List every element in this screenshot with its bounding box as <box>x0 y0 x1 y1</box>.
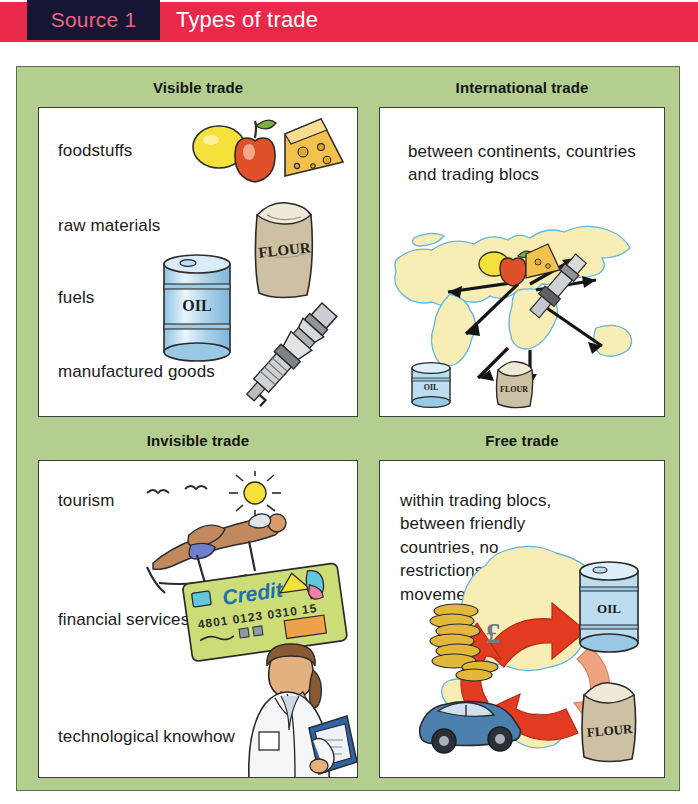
item-raw-materials: raw materials <box>58 216 160 236</box>
source-tag: Source 1 <box>27 0 160 40</box>
oil-drum-text: OIL <box>182 297 211 314</box>
panel-box-visible: foodstuffs raw materials fuels manufactu… <box>38 107 358 417</box>
sun-icon <box>229 471 281 517</box>
item-fuels: fuels <box>58 288 94 308</box>
free-oil-text: OIL <box>597 601 621 616</box>
foodstuffs-art <box>187 114 349 186</box>
panel-title-free: Free trade <box>379 432 665 449</box>
map-flour-text: FLOUR <box>500 385 528 394</box>
free-oil-drum-icon: OIL <box>580 562 638 652</box>
panel-title-international: International trade <box>379 79 665 96</box>
seagull-icon <box>147 486 207 493</box>
card-chip-icon <box>192 591 212 607</box>
item-foodstuffs: foodstuffs <box>58 141 132 161</box>
spark-plug-art <box>235 293 345 417</box>
map-oil-drum-icon: OIL <box>412 363 450 408</box>
panel-box-invisible: tourism financial services technological… <box>38 460 358 778</box>
international-paragraph: between continents, countries and tradin… <box>408 140 638 187</box>
panel-free-trade: Free trade within trading blocs, between… <box>379 432 665 778</box>
page-title: Types of trade <box>176 0 318 40</box>
international-map-art: OIL FLOUR <box>390 218 658 408</box>
panel-title-visible: Visible trade <box>38 79 358 96</box>
oil-drum-art: OIL <box>152 248 242 368</box>
apple-icon <box>235 120 276 182</box>
panel-invisible-trade: Invisible trade tourism financial servic… <box>38 432 358 778</box>
panel-box-free: within trading blocs, between friendly c… <box>379 460 665 778</box>
flour-sack-art: FLOUR <box>245 193 325 303</box>
coin-stack-pound-icon: £ <box>430 604 501 681</box>
panel-title-invisible: Invisible trade <box>38 432 358 449</box>
panel-visible-trade: Visible trade foodstuffs raw materials f… <box>38 79 358 417</box>
item-financial-services: financial services <box>58 610 189 630</box>
cheese-wedge-icon <box>285 119 343 176</box>
panel-international-trade: International trade between continents, … <box>379 79 665 417</box>
item-technological-knowhow: technological knowhow <box>58 727 235 747</box>
free-trade-art: £ OIL FLOUR <box>408 539 664 771</box>
diagram-frame: Visible trade foodstuffs raw materials f… <box>16 66 680 791</box>
panel-box-international: between continents, countries and tradin… <box>379 107 665 417</box>
map-flour-sack-icon: FLOUR <box>497 362 533 408</box>
scientist-woman-icon <box>249 644 357 778</box>
map-oil-text: OIL <box>424 383 439 392</box>
free-flour-sack-icon: FLOUR <box>582 683 636 762</box>
pound-symbol: £ <box>486 616 501 649</box>
item-tourism: tourism <box>58 491 114 511</box>
lab-coat-pocket <box>259 732 279 750</box>
source-label: Source 1 <box>51 8 137 32</box>
scientist-woman-art <box>229 636 358 778</box>
